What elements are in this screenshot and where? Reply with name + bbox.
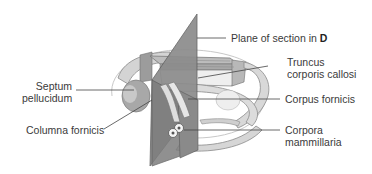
label-columna-text: Columna fornicis (26, 124, 104, 136)
label-truncus-line1: Truncus (287, 56, 356, 68)
label-septum-line2: pellucidum (22, 92, 72, 104)
label-septum: Septum pellucidum (22, 80, 72, 104)
label-corpus-fornicis: Corpus fornicis (285, 93, 355, 105)
label-corpora-line1: Corpora (285, 124, 342, 136)
label-plane-bold: D (320, 32, 328, 44)
label-corpora-line2: mammillaria (285, 136, 342, 148)
label-plane-text: Plane of section in (231, 32, 320, 44)
label-truncus: Truncus corporis callosi (287, 56, 356, 80)
label-columna-fornicis: Columna fornicis (26, 124, 104, 136)
label-truncus-line2: corporis callosi (287, 68, 356, 80)
label-corpus-fornicis-text: Corpus fornicis (285, 93, 355, 105)
label-septum-line1: Septum (22, 80, 72, 92)
anatomy-figure: Plane of section in D Truncus corporis c… (0, 0, 372, 174)
label-corpora-mammillaria: Corpora mammillaria (285, 124, 342, 148)
label-plane-of-section: Plane of section in D (231, 32, 327, 44)
